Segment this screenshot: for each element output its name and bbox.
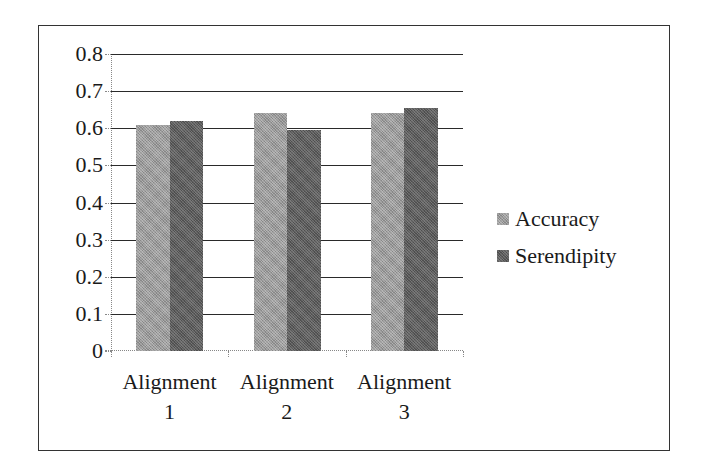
bar-serendipity-2	[287, 130, 321, 351]
x-category-label: Alignment 3	[346, 367, 463, 427]
y-tick	[105, 54, 111, 55]
x-category-label: Alignment 1	[111, 367, 228, 427]
plot-area: 0.80.70.60.50.40.30.20.10Alignment 1Alig…	[111, 54, 463, 351]
x-tick	[111, 351, 112, 357]
serendipity-swatch-icon	[497, 250, 509, 262]
y-tick	[105, 277, 111, 278]
accuracy-swatch-icon	[497, 213, 509, 225]
y-tick	[105, 314, 111, 315]
x-tick	[463, 351, 464, 357]
x-tick	[228, 351, 229, 357]
bar-serendipity-3	[404, 108, 438, 351]
y-tick-label: 0.1	[76, 303, 104, 325]
legend-label: Accuracy	[515, 206, 599, 232]
bar-accuracy-1	[136, 125, 170, 351]
y-tick-label: 0	[92, 340, 103, 362]
y-tick-label: 0.8	[76, 43, 104, 65]
y-tick-label: 0.6	[76, 117, 104, 139]
y-tick	[105, 240, 111, 241]
x-category-label: Alignment 2	[228, 367, 345, 427]
x-tick	[346, 351, 347, 357]
y-tick-label: 0.3	[76, 229, 104, 251]
legend-label: Serendipity	[515, 243, 616, 269]
bar-accuracy-3	[371, 113, 405, 351]
y-tick	[105, 91, 111, 92]
y-tick-label: 0.4	[76, 192, 104, 214]
legend-item-serendipity: Serendipity	[497, 237, 616, 274]
y-tick-label: 0.2	[76, 266, 104, 288]
bar-serendipity-1	[170, 121, 204, 351]
y-tick	[105, 128, 111, 129]
bar-accuracy-2	[254, 113, 288, 351]
gridline	[111, 54, 463, 55]
y-tick	[105, 165, 111, 166]
y-tick-label: 0.5	[76, 154, 104, 176]
legend-item-accuracy: Accuracy	[497, 200, 616, 237]
legend: Accuracy Serendipity	[497, 200, 616, 274]
y-tick-label: 0.7	[76, 80, 104, 102]
gridline	[111, 91, 463, 92]
y-tick	[105, 203, 111, 204]
